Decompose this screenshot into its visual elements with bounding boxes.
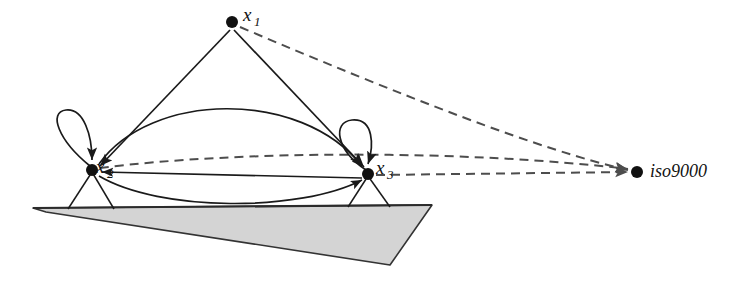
leg-x3-left bbox=[348, 176, 368, 207]
solid-edge-x2-to-x3-lower bbox=[99, 176, 362, 204]
self-loop-x3 bbox=[340, 120, 372, 170]
diagram-canvas: x 1 x 2 x 3 iso9000 bbox=[0, 0, 746, 282]
node-iso9000[interactable] bbox=[631, 166, 643, 178]
dashed-edges-group bbox=[100, 27, 628, 175]
solid-edge-x1-to-x2 bbox=[100, 30, 230, 166]
solid-edge-x1-to-x3 bbox=[234, 30, 364, 167]
dashed-edge-x3-to-iso9000 bbox=[376, 172, 628, 175]
solid-edge-x2-to-x3-upper bbox=[99, 109, 362, 166]
node-label-x1-subscript: 1 bbox=[254, 14, 261, 29]
solid-edges-group bbox=[99, 30, 364, 204]
ground-plane-group bbox=[33, 205, 432, 265]
node-x1[interactable] bbox=[226, 16, 238, 28]
node-label-x3: x bbox=[375, 157, 385, 178]
node-label-x1: x bbox=[242, 4, 252, 25]
node-label-x3-subscript: 3 bbox=[386, 167, 394, 182]
diagram-root: x 1 x 2 x 3 iso9000 bbox=[0, 0, 746, 282]
self-loop-x2 bbox=[57, 110, 92, 166]
solid-edge-x3-to-x2 bbox=[102, 172, 362, 178]
node-label-x2-subscript: 2 bbox=[107, 166, 114, 181]
node-label-x2: x bbox=[95, 156, 105, 177]
nodes-group bbox=[86, 16, 643, 180]
node-x3[interactable] bbox=[362, 168, 374, 180]
ground-plane bbox=[33, 205, 432, 265]
leg-x2-left bbox=[68, 172, 92, 209]
node-label-iso9000: iso9000 bbox=[650, 161, 707, 181]
